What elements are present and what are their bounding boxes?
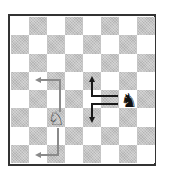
square-b1	[29, 145, 47, 163]
square-f2	[101, 127, 119, 145]
square-f6	[101, 54, 119, 72]
square-e8	[83, 17, 101, 35]
square-h4	[137, 90, 155, 108]
square-a3	[11, 108, 29, 126]
square-a5	[11, 72, 29, 90]
square-g5	[119, 72, 137, 90]
square-b4	[29, 90, 47, 108]
square-h5	[137, 72, 155, 90]
square-h6	[137, 54, 155, 72]
square-g2	[119, 127, 137, 145]
square-d7	[65, 35, 83, 53]
square-a4	[11, 90, 29, 108]
square-e5	[83, 72, 101, 90]
square-b6	[29, 54, 47, 72]
square-b2	[29, 127, 47, 145]
square-f4	[101, 90, 119, 108]
square-a2	[11, 127, 29, 145]
square-g8	[119, 17, 137, 35]
square-e2	[83, 127, 101, 145]
square-g1	[119, 145, 137, 163]
square-h7	[137, 35, 155, 53]
square-c8	[47, 17, 65, 35]
square-f7	[101, 35, 119, 53]
square-d3	[65, 108, 83, 126]
square-h2	[137, 127, 155, 145]
square-e3	[83, 108, 101, 126]
square-d6	[65, 54, 83, 72]
black-knight: ♞	[120, 91, 138, 109]
square-c5	[47, 72, 65, 90]
square-c7	[47, 35, 65, 53]
square-c6	[47, 54, 65, 72]
square-g6	[119, 54, 137, 72]
square-d5	[65, 72, 83, 90]
square-e7	[83, 35, 101, 53]
square-d4	[65, 90, 83, 108]
square-a7	[11, 35, 29, 53]
square-g7	[119, 35, 137, 53]
square-f8	[101, 17, 119, 35]
square-f3	[101, 108, 119, 126]
square-b8	[29, 17, 47, 35]
square-b5	[29, 72, 47, 90]
square-a1	[11, 145, 29, 163]
white-knight: ♘	[47, 109, 65, 127]
square-h3	[137, 108, 155, 126]
square-e1	[83, 145, 101, 163]
square-h8	[137, 17, 155, 35]
square-c1	[47, 145, 65, 163]
square-e4	[83, 90, 101, 108]
square-a6	[11, 54, 29, 72]
square-d1	[65, 145, 83, 163]
square-h1	[137, 145, 155, 163]
square-f5	[101, 72, 119, 90]
square-c4	[47, 90, 65, 108]
square-e6	[83, 54, 101, 72]
square-c2	[47, 127, 65, 145]
square-b3	[29, 108, 47, 126]
square-d8	[65, 17, 83, 35]
square-f1	[101, 145, 119, 163]
square-d2	[65, 127, 83, 145]
square-a8	[11, 17, 29, 35]
square-b7	[29, 35, 47, 53]
